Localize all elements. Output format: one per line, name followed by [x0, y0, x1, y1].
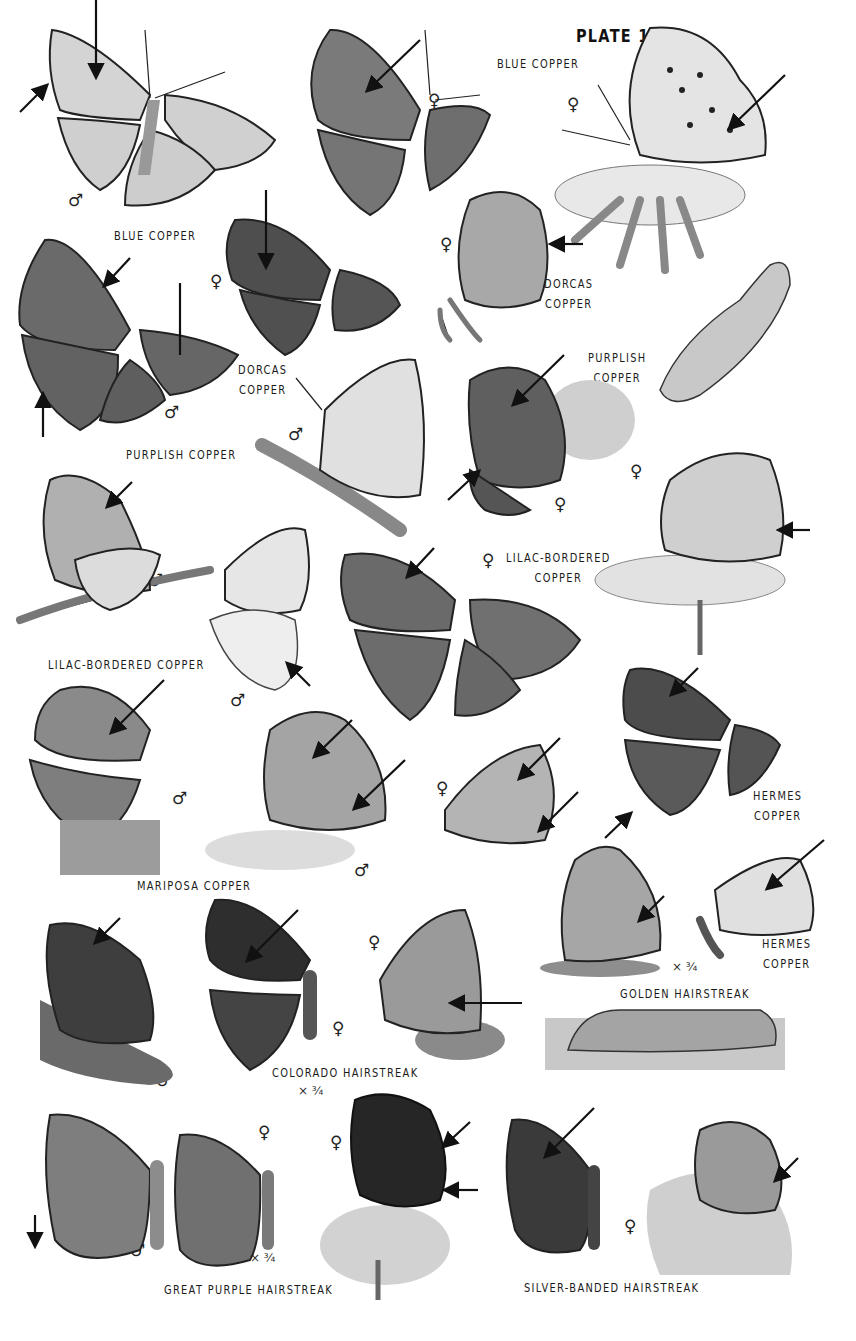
- purplish-copper-male-underside-figure: [262, 360, 424, 530]
- mariposa-copper-male-figure: [30, 680, 164, 875]
- lilac-bordered-copper-female-flower-figure: [595, 453, 810, 655]
- golden-hairstreak-larva-figure: [545, 1010, 785, 1070]
- hermes-copper-upperside-figure: [605, 668, 780, 838]
- blue-copper-female-flower-figure: [555, 27, 785, 270]
- colorado-hairstreak-female-figure: [206, 900, 317, 1070]
- great-purple-hairstreak-flower-figure: [320, 1094, 478, 1300]
- purplish-copper-larva: [660, 263, 790, 402]
- field-guide-plate: PLATE 15 BLUE COPPER BLUE COPPER DORCASC…: [0, 0, 856, 1341]
- dorcas-copper-female-figure: [227, 190, 400, 355]
- purplish-copper-female-flower-figure: [448, 355, 635, 515]
- colorado-hairstreak-male-figure: [40, 918, 173, 1085]
- great-purple-hairstreak-male-figure: [35, 1115, 164, 1258]
- mariposa-copper-male-underside-figure: [205, 712, 405, 870]
- silver-banded-hairstreak-figure: [507, 1108, 600, 1253]
- lilac-bordered-copper-female-figure: [341, 548, 580, 720]
- dorcas-copper-female-underside-figure: [440, 192, 583, 340]
- hermes-copper-underside-figure: [700, 840, 824, 955]
- blue-copper-male-figure: [20, 0, 275, 206]
- blue-copper-female-figure: [311, 30, 490, 215]
- butterfly-illustrations: [0, 0, 856, 1341]
- great-purple-hairstreak-female-figure: [175, 1135, 274, 1266]
- lilac-bordered-copper-male-figure: [20, 476, 210, 621]
- mariposa-copper-female-underside-figure: [445, 738, 578, 843]
- purplish-copper-male-figure: [19, 240, 238, 437]
- golden-hairstreak-figure: [540, 847, 664, 977]
- colorado-hairstreak-female-underside-figure: [380, 910, 522, 1060]
- lilac-bordered-copper-male-underside-figure: [210, 528, 310, 690]
- silver-banded-hairstreak-underside-figure: [647, 1122, 798, 1275]
